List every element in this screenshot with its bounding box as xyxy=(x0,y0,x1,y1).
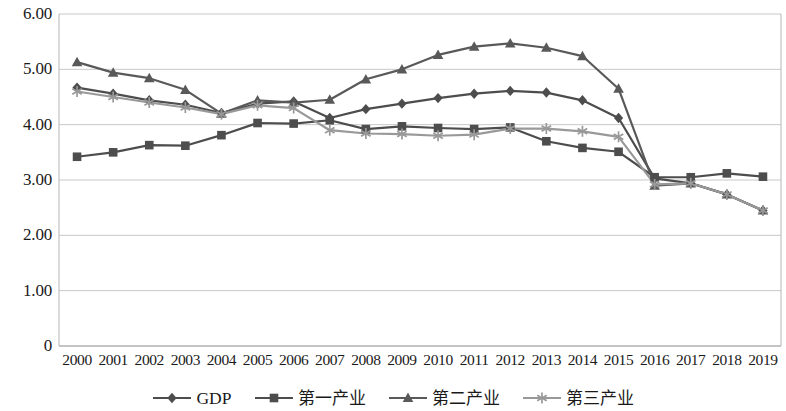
data-point-marker xyxy=(578,95,587,105)
x-axis-tick-label: 2009 xyxy=(384,352,420,368)
legend-item-star[interactable]: 第三产业 xyxy=(522,388,634,408)
x-axis-tick-label: 2006 xyxy=(276,352,312,368)
data-point-marker xyxy=(614,147,623,156)
data-point-marker xyxy=(578,144,587,153)
series-line-1 xyxy=(77,120,763,177)
data-point-marker xyxy=(289,119,298,128)
data-point-marker xyxy=(723,169,732,178)
data-point-marker xyxy=(361,104,370,114)
legend-marker-icon xyxy=(388,388,428,408)
data-point-marker xyxy=(72,57,83,66)
legend-label: 第三产业 xyxy=(566,388,634,408)
x-axis-tick-label: 2015 xyxy=(601,352,637,368)
series-line-3 xyxy=(77,91,763,210)
legend-label: 第二产业 xyxy=(432,388,500,408)
x-axis-tick-label: 2008 xyxy=(348,352,384,368)
legend-item-diamond[interactable]: GDP xyxy=(152,388,231,408)
legend-marker-icon xyxy=(152,388,192,408)
y-axis-tick-label: 5.00 xyxy=(0,60,52,77)
legend-marker-icon xyxy=(522,388,562,408)
x-axis-tick-label: 2013 xyxy=(528,352,564,368)
data-point-marker xyxy=(145,141,154,150)
y-axis-tick-label: 4.00 xyxy=(0,116,52,133)
y-axis-tick-label: 6.00 xyxy=(0,5,52,22)
legend-label: 第一产业 xyxy=(298,388,366,408)
chart-legend: GDP第一产业第二产业第三产业 xyxy=(0,384,786,411)
x-axis-tick-label: 2010 xyxy=(420,352,456,368)
x-axis-tick-label: 2004 xyxy=(203,352,239,368)
x-axis-tick-label: 2017 xyxy=(673,352,709,368)
x-axis-tick-label: 2005 xyxy=(240,352,276,368)
y-axis-tick-label: 3.00 xyxy=(0,171,52,188)
data-point-marker xyxy=(433,93,442,103)
x-axis-tick-label: 2011 xyxy=(456,352,492,368)
data-point-marker xyxy=(325,116,334,125)
data-point-marker xyxy=(470,88,479,98)
data-point-marker xyxy=(542,137,551,146)
x-axis-tick-label: 2019 xyxy=(745,352,781,368)
series-lines xyxy=(77,43,763,210)
x-axis-tick-label: 2007 xyxy=(312,352,348,368)
data-point-marker xyxy=(397,98,406,108)
line-chart: 01.002.003.004.005.006.00 20002001200220… xyxy=(0,0,786,411)
data-point-marker xyxy=(109,148,118,157)
data-point-marker xyxy=(217,131,226,140)
legend-label: GDP xyxy=(196,388,231,408)
legend-item-triangle[interactable]: 第二产业 xyxy=(388,388,500,408)
x-axis-tick-label: 2014 xyxy=(564,352,600,368)
data-point-marker xyxy=(181,141,190,150)
y-axis-tick-label: 1.00 xyxy=(0,282,52,299)
x-axis-tick-label: 2002 xyxy=(131,352,167,368)
x-axis-tick-label: 2018 xyxy=(709,352,745,368)
x-axis-tick-label: 2001 xyxy=(95,352,131,368)
x-axis-tick-label: 2000 xyxy=(59,352,95,368)
data-point-marker xyxy=(253,119,262,128)
data-point-marker xyxy=(542,87,551,97)
x-axis-tick-label: 2003 xyxy=(167,352,203,368)
legend-item-square[interactable]: 第一产业 xyxy=(254,388,366,408)
data-point-marker xyxy=(506,86,515,96)
x-axis-tick-label: 2012 xyxy=(492,352,528,368)
x-axis-tick-label: 2016 xyxy=(637,352,673,368)
y-axis-tick-label: 2.00 xyxy=(0,226,52,243)
legend-marker-icon xyxy=(254,388,294,408)
data-point-marker xyxy=(759,172,768,181)
data-point-marker xyxy=(73,152,82,161)
chart-plot-area xyxy=(0,0,786,411)
y-axis-tick-label: 0 xyxy=(0,337,52,354)
